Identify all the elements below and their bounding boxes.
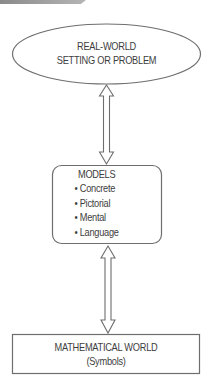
math-world-line2: (Symbols): [23, 354, 188, 368]
real-world-line2: SETTING OR PROBLEM: [23, 53, 189, 67]
model-mental: Mental: [80, 211, 106, 223]
list-item: •Mental: [74, 210, 155, 225]
double-arrow-icon: [101, 246, 115, 333]
models-label: MODELS •Concrete •Pictorial •Mental •Lan…: [59, 167, 156, 239]
math-world-label: MATHEMATICAL WORLD (Symbols): [23, 340, 188, 368]
double-arrow-icon: [100, 85, 114, 164]
models-title: MODELS: [59, 167, 156, 181]
models-list: •Concrete •Pictorial •Mental •Language: [59, 181, 156, 239]
math-world-line1: MATHEMATICAL WORLD: [23, 340, 188, 354]
list-item: •Concrete: [74, 181, 155, 196]
real-world-label: REAL-WORLD SETTING OR PROBLEM: [23, 39, 189, 67]
model-language: Language: [80, 226, 119, 238]
real-world-line1: REAL-WORLD: [23, 39, 189, 53]
list-item: •Language: [74, 225, 155, 240]
model-pictorial: Pictorial: [80, 197, 110, 209]
list-item: •Pictorial: [74, 196, 155, 211]
model-concrete: Concrete: [80, 182, 115, 194]
